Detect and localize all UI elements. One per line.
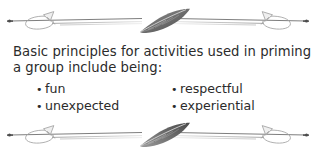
list-item-label: experiential [180,98,255,115]
quill-arrow-divider-top [0,2,316,42]
bullet-icon: • [36,99,45,116]
divider-top-left-half [7,12,142,30]
lead-line-2: a group include being: [13,60,305,76]
list-item: • respectful [171,81,255,99]
bullet-column-left: • fun • unexpected [36,81,119,116]
lead-line-1: Basic principles for activities used in … [13,44,305,60]
bullet-icon: • [171,99,180,116]
bullet-columns: • fun • unexpected • respectful • experi… [13,81,305,115]
quill-arrow-divider-bottom [0,116,316,156]
feather-icon-bottom [140,123,190,147]
list-item-label: unexpected [45,98,119,115]
text-block: Basic principles for activities used in … [13,44,305,115]
list-item-label: respectful [180,81,243,98]
slide-canvas: Basic principles for activities used in … [0,0,316,166]
bullet-column-right: • respectful • experiential [171,81,255,116]
bullet-icon: • [171,82,180,99]
list-item-label: fun [45,81,65,98]
list-item: • fun [36,81,119,99]
divider-bottom-right-half [174,126,309,144]
divider-top-right-half [174,12,309,30]
bullet-icon: • [36,82,45,99]
list-item: • experiential [171,98,255,116]
divider-bottom-left-half [7,126,142,144]
list-item: • unexpected [36,98,119,116]
feather-icon-top [140,9,190,33]
